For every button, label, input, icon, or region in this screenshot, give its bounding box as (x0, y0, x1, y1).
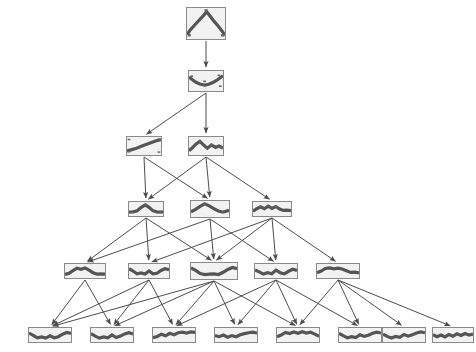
sparkline-path (153, 332, 195, 338)
node-sparkline-n19 (433, 328, 473, 342)
node-sparkline-n11 (317, 264, 359, 278)
graph-node-n2[interactable] (126, 136, 162, 156)
node-sparkline-n8 (129, 264, 169, 278)
graph-node-n6[interactable] (252, 201, 292, 217)
node-sparkline-n10 (255, 264, 297, 278)
node-sparkline-n16 (277, 328, 319, 342)
sparkline-marker-2 (274, 206, 277, 207)
sparkline-marker-2 (218, 75, 221, 77)
node-sparkline-n2 (127, 137, 161, 155)
sparkline-path (91, 333, 133, 338)
sparkline-marker-0 (128, 151, 131, 152)
sparkline-path (215, 332, 257, 337)
graph-node-n15[interactable] (214, 327, 258, 343)
sparkline-path (29, 332, 71, 338)
sparkline-path (127, 140, 161, 152)
sparkline-path (277, 332, 319, 337)
graph-node-n14[interactable] (152, 327, 196, 343)
sparkline-marker-3 (158, 151, 161, 152)
graph-node-n19[interactable] (432, 327, 474, 343)
node-sparkline-n14 (153, 328, 195, 342)
graph-node-n5[interactable] (190, 200, 230, 218)
sparkline-path (255, 269, 297, 274)
sparkline-path (339, 332, 381, 338)
sparkline-marker-2 (159, 212, 162, 213)
node-sparkline-n7 (65, 264, 105, 278)
diagram-canvas (0, 0, 476, 352)
node-layer (0, 0, 476, 352)
graph-node-n1[interactable] (188, 70, 224, 92)
sparkline-marker-0 (199, 141, 202, 142)
sparkline-marker-2 (128, 139, 131, 140)
sparkline-marker-1 (158, 138, 161, 139)
sparkline-path (383, 332, 425, 338)
node-sparkline-n4 (129, 202, 163, 216)
node-sparkline-n18 (383, 328, 425, 342)
graph-node-n16[interactable] (276, 327, 320, 343)
graph-node-n9[interactable] (190, 262, 238, 280)
sparkline-path (129, 269, 169, 274)
node-sparkline-n1 (189, 71, 223, 91)
sparkline-marker-1 (221, 212, 224, 213)
sparkline-marker-0 (259, 206, 262, 207)
graph-node-n10[interactable] (254, 263, 298, 279)
graph-node-n11[interactable] (316, 263, 360, 279)
sparkline-marker-3 (219, 85, 222, 87)
graph-node-n0[interactable] (186, 7, 226, 40)
graph-node-n13[interactable] (90, 327, 134, 343)
graph-node-n4[interactable] (128, 201, 164, 217)
node-sparkline-n6 (253, 202, 291, 216)
sparkline-marker-1 (210, 144, 213, 145)
sparkline-marker-1 (267, 206, 270, 207)
node-sparkline-n9 (191, 263, 237, 279)
graph-node-n3[interactable] (188, 136, 224, 156)
node-sparkline-n5 (191, 201, 229, 217)
sparkline-path (189, 141, 223, 150)
graph-node-n17[interactable] (338, 327, 382, 343)
sparkline-marker-2 (204, 9, 207, 11)
sparkline-path (433, 334, 473, 337)
graph-node-n8[interactable] (128, 263, 170, 279)
node-sparkline-n13 (91, 328, 133, 342)
sparkline-marker-1 (203, 81, 206, 83)
graph-node-n12[interactable] (28, 327, 72, 343)
graph-node-n18[interactable] (382, 327, 426, 343)
sparkline-marker-0 (203, 203, 206, 204)
sparkline-path (187, 12, 225, 36)
sparkline-marker-0 (190, 75, 193, 77)
node-sparkline-n12 (29, 328, 71, 342)
sparkline-path (253, 206, 291, 211)
sparkline-path (191, 267, 237, 274)
sparkline-path (317, 268, 359, 273)
sparkline-marker-1 (221, 34, 224, 36)
node-sparkline-n3 (189, 137, 223, 155)
sparkline-path (129, 205, 163, 212)
sparkline-path (191, 204, 229, 212)
graph-node-n7[interactable] (64, 263, 106, 279)
sparkline-marker-0 (188, 34, 191, 36)
sparkline-marker-1 (130, 212, 133, 213)
node-sparkline-n0 (187, 8, 225, 39)
sparkline-path (189, 76, 223, 85)
node-sparkline-n15 (215, 328, 257, 342)
node-sparkline-n17 (339, 328, 381, 342)
sparkline-path (65, 268, 105, 274)
sparkline-marker-0 (144, 204, 147, 205)
sparkline-marker-2 (220, 147, 223, 148)
